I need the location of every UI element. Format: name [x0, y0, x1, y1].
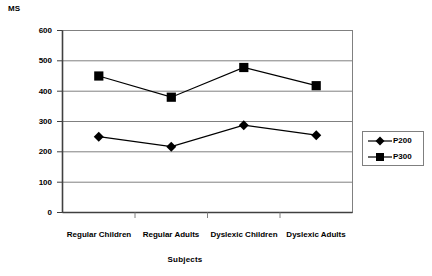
legend-marker-diamond-icon: [367, 133, 393, 149]
y-tick-label-500: 500: [22, 56, 52, 65]
x-axis-title: Subjects: [0, 255, 370, 264]
legend-label-p200: P200: [393, 136, 412, 145]
legend-label-p300: P300: [393, 152, 412, 161]
x-axis-ticks: [135, 213, 280, 219]
y-tick-label-400: 400: [22, 87, 52, 96]
chart-legend: P200 P300: [362, 131, 424, 166]
line-chart: MS: [0, 0, 432, 276]
y-tick-label-100: 100: [22, 178, 52, 187]
y-tick-label-0: 0: [22, 208, 52, 217]
y-tick-label-600: 600: [22, 26, 52, 35]
legend-item-p300: P300: [363, 149, 425, 165]
y-tick-label-200: 200: [22, 147, 52, 156]
y-tick-label-300: 300: [22, 117, 52, 126]
y-axis-ticks: [57, 31, 63, 213]
x-tick-label-dyslexic-adults: Dyslexic Adults: [266, 230, 366, 239]
legend-marker-square-icon: [367, 149, 393, 165]
legend-item-p200: P200: [363, 133, 425, 149]
